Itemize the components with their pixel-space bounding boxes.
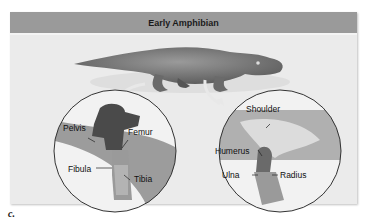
label-ulna: Ulna — [222, 170, 239, 180]
hindlimb-inset — [50, 90, 180, 215]
amphibian-illustration — [0, 0, 367, 223]
label-tibia: Tibia — [134, 174, 152, 184]
figure-caption: c. — [8, 208, 15, 219]
label-pelvis: Pelvis — [63, 123, 86, 133]
label-radius: Radius — [280, 170, 306, 180]
label-shoulder: Shoulder — [246, 104, 280, 114]
label-femur: Femur — [128, 127, 153, 137]
label-humerus: Humerus — [215, 146, 249, 156]
amphibian-body — [74, 47, 290, 93]
label-fibula: Fibula — [68, 164, 91, 174]
